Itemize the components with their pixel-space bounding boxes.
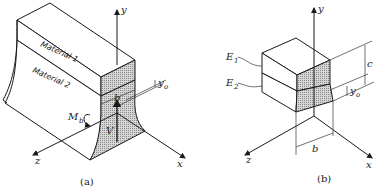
height-label: c	[367, 58, 373, 69]
modulus-1-label: E	[225, 51, 234, 62]
x-axis-label-a: x	[177, 158, 183, 169]
width-label-a: b	[114, 92, 120, 103]
moment-label: M	[67, 111, 79, 122]
offset-label-a: y	[157, 77, 164, 88]
offset-subscript-b: o	[356, 91, 360, 99]
figure-a-beam	[3, 3, 145, 160]
height-ext-top	[330, 41, 372, 60]
modulus-1-leader	[238, 57, 262, 66]
y-axis-label-a: y	[120, 4, 127, 15]
z-axis-label-a: z	[34, 155, 41, 166]
modulus-2-subscript: 2	[233, 83, 239, 91]
z-axis-b	[245, 116, 314, 155]
modulus-1-subscript: 1	[234, 57, 238, 65]
offset-label-b: y	[349, 85, 356, 96]
caption-b: (b)	[317, 173, 331, 184]
offset-subscript-a: o	[164, 83, 168, 91]
modulus-2-leader	[238, 83, 262, 87]
figure-b-block	[262, 38, 333, 112]
moment-subscript: b	[79, 117, 84, 125]
composite-beam-diagram: Material 1 Material 2 y x z V M b b y o …	[0, 0, 381, 191]
caption-a: (a)	[80, 176, 94, 187]
width-label-b: b	[312, 143, 318, 154]
z-axis-label-b: z	[245, 154, 252, 165]
y-axis-label-b: y	[317, 3, 324, 14]
modulus-2-label: E	[225, 77, 234, 88]
x-axis-label-b: x	[366, 159, 372, 170]
